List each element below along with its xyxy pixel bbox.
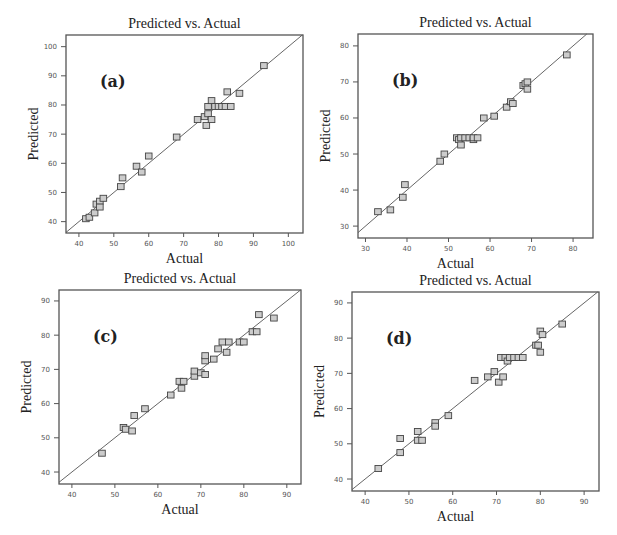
x-tick-label: 90 xyxy=(249,240,258,248)
data-point xyxy=(191,368,198,374)
x-tick-label: 30 xyxy=(361,245,370,253)
y-tick-label: 30 xyxy=(340,223,349,231)
data-point xyxy=(419,437,426,443)
data-point xyxy=(241,339,248,345)
x-tick-label: 80 xyxy=(239,491,248,499)
y-tick-label: 40 xyxy=(48,218,57,226)
data-point xyxy=(97,204,104,210)
chart-panel-a: Predicted vs. Actual40506070809010040506… xyxy=(26,13,309,267)
y-tick-label: 90 xyxy=(41,297,50,305)
x-tick-label: 40 xyxy=(403,245,412,253)
data-point xyxy=(559,321,566,327)
y-axis-label: Predicted xyxy=(318,110,333,163)
panel-label: (c) xyxy=(93,327,118,346)
data-point xyxy=(117,184,124,190)
panel-label: (b) xyxy=(392,71,418,90)
data-point xyxy=(119,175,126,181)
data-point xyxy=(138,169,145,175)
x-tick-label: 70 xyxy=(492,498,501,506)
y-axis-label: Predicted xyxy=(26,108,41,161)
y-tick-label: 70 xyxy=(340,78,349,86)
data-point xyxy=(256,312,263,318)
x-tick-label: 80 xyxy=(214,240,223,248)
data-point xyxy=(215,346,222,352)
x-axis-label: Actual xyxy=(437,509,474,524)
y-tick-label: 40 xyxy=(41,469,50,477)
data-point xyxy=(122,426,129,432)
x-tick-label: 50 xyxy=(444,245,453,253)
y-tick-label: 70 xyxy=(334,370,343,378)
y-tick-label: 80 xyxy=(41,332,50,340)
data-point xyxy=(261,63,268,69)
data-point xyxy=(224,89,231,95)
data-point xyxy=(227,103,234,109)
panel-label: (d) xyxy=(386,329,412,348)
data-point xyxy=(167,392,174,398)
x-tick-label: 70 xyxy=(179,240,188,248)
chart-title: Predicted vs. Actual xyxy=(124,271,236,286)
data-point xyxy=(441,151,448,157)
x-tick-label: 80 xyxy=(536,498,545,506)
x-axis-label: Actual xyxy=(437,256,474,271)
y-tick-label: 50 xyxy=(48,189,57,197)
data-point xyxy=(524,79,531,85)
data-point xyxy=(133,163,140,169)
data-point xyxy=(375,465,382,471)
data-point xyxy=(131,413,138,419)
data-point xyxy=(471,377,478,383)
data-point xyxy=(484,374,491,380)
data-point xyxy=(99,450,106,456)
data-point xyxy=(205,103,212,109)
data-point xyxy=(225,339,232,345)
x-tick-label: 60 xyxy=(153,491,162,499)
data-point xyxy=(414,428,421,434)
x-tick-label: 50 xyxy=(404,498,413,506)
data-point xyxy=(202,372,209,378)
x-tick-label: 40 xyxy=(361,498,370,506)
y-tick-label: 90 xyxy=(48,72,57,80)
data-point xyxy=(400,194,407,200)
y-tick-label: 60 xyxy=(340,114,349,122)
x-tick-label: 40 xyxy=(74,240,83,248)
y-tick-label: 100 xyxy=(44,43,57,51)
data-point xyxy=(142,406,149,412)
y-tick-label: 60 xyxy=(334,405,343,413)
y-tick-label: 40 xyxy=(334,476,343,484)
y-tick-label: 80 xyxy=(340,42,349,50)
data-point xyxy=(223,349,230,355)
x-tick-label: 60 xyxy=(486,245,495,253)
data-point xyxy=(194,117,201,123)
data-point xyxy=(535,342,542,348)
x-tick-label: 90 xyxy=(580,498,589,506)
data-point xyxy=(445,413,452,419)
data-point xyxy=(178,385,185,391)
x-axis-label: Actual xyxy=(161,502,198,517)
data-point xyxy=(236,90,243,96)
data-point xyxy=(180,378,187,384)
data-point xyxy=(510,101,517,107)
data-point xyxy=(564,52,571,58)
data-point xyxy=(491,369,498,375)
data-point xyxy=(208,98,215,104)
y-tick-label: 50 xyxy=(334,440,343,448)
chart-title: Predicted vs. Actual xyxy=(128,16,240,31)
x-tick-label: 60 xyxy=(144,240,153,248)
data-point xyxy=(524,86,531,92)
x-tick-label: 60 xyxy=(448,498,457,506)
data-point xyxy=(208,117,215,123)
x-tick-label: 70 xyxy=(196,491,205,499)
data-point xyxy=(519,355,526,361)
chart-title: Predicted vs. Actual xyxy=(419,273,531,288)
data-point xyxy=(129,428,136,434)
y-tick-label: 80 xyxy=(48,101,57,109)
data-point xyxy=(500,374,507,380)
data-point xyxy=(537,349,544,355)
data-point xyxy=(100,195,107,201)
y-tick-label: 80 xyxy=(334,335,343,343)
chart-title: Predicted vs. Actual xyxy=(419,15,531,30)
y-tick-label: 50 xyxy=(41,434,50,442)
x-tick-label: 50 xyxy=(110,491,119,499)
data-point xyxy=(253,329,260,335)
x-tick-label: 100 xyxy=(282,240,295,248)
data-point xyxy=(145,153,152,159)
